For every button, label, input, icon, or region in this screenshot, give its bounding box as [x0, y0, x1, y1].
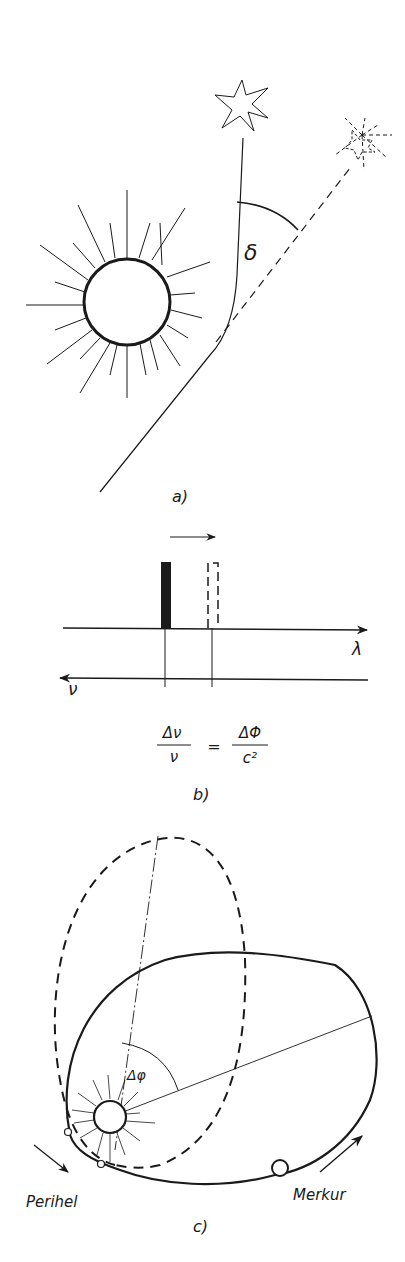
true-star-icon: [215, 80, 268, 131]
precessed-orbit-dashed: [55, 838, 245, 1168]
nu-label: ν: [68, 679, 78, 699]
delta-symbol: δ: [244, 240, 257, 265]
nu-axis: [60, 678, 368, 680]
sun-icon: [26, 190, 210, 398]
apparent-star-icon: [335, 118, 392, 170]
panel-b-label: b): [193, 785, 209, 804]
precessed-major-axis: [115, 836, 158, 1150]
original-spectral-line: [161, 562, 171, 628]
sun-icon-small: [72, 1075, 155, 1162]
panel-a: δ a): [26, 80, 392, 506]
formula-lhs-numerator: Δν: [162, 724, 182, 742]
panel-c: Δφ Perihel Merkur c): [26, 836, 377, 1236]
mercury-orbit: [67, 952, 377, 1184]
figure-canvas: δ a) λ ν Δν ν = ΔΦ c² b): [0, 0, 405, 1262]
major-axis: [110, 1016, 372, 1117]
formula-lhs-denominator: ν: [170, 748, 178, 766]
panel-b: λ ν Δν ν = ΔΦ c² b): [60, 537, 368, 804]
apparent-direction-dashed: [216, 168, 350, 342]
mercury-label: Merkur: [293, 1186, 347, 1204]
perihelion-point-precessed: [98, 1161, 105, 1168]
mercury-planet: [272, 1160, 288, 1176]
formula-rhs-denominator: c²: [243, 749, 257, 767]
perihelion-label: Perihel: [26, 1193, 78, 1211]
shifted-spectral-line: [208, 563, 218, 628]
panel-c-label: c): [193, 1217, 208, 1236]
formula-rhs-numerator: ΔΦ: [238, 724, 261, 742]
lambda-label: λ: [351, 639, 362, 659]
delta-phi-symbol: Δφ: [126, 1067, 147, 1083]
redshift-formula: Δν ν = ΔΦ c²: [157, 724, 268, 767]
formula-equals: =: [207, 737, 220, 756]
perihelion-point-original: [65, 1129, 72, 1136]
panel-a-label: a): [172, 487, 188, 506]
lambda-axis: [63, 628, 367, 630]
deflection-angle-arc: [237, 202, 298, 230]
perihelion-arrow: [34, 1145, 68, 1172]
